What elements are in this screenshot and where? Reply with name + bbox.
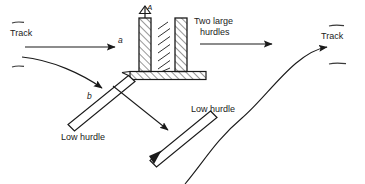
track-right-dash-top xyxy=(329,25,344,26)
low-hurdle-left-bar xyxy=(68,76,135,132)
track-left-dash-top xyxy=(12,22,24,23)
large-hurdle-base xyxy=(130,72,206,80)
two-large-hurdles-label-line1: Two large xyxy=(194,16,233,27)
track-left-label: Track xyxy=(10,28,32,39)
large-hurdle-gap-hatching xyxy=(158,22,170,72)
low-hurdle-right-label: Low hurdle xyxy=(191,104,235,115)
large-hurdle-left-pillar xyxy=(139,18,151,72)
figure-root: Track Track a b A Two large hurdles Low … xyxy=(0,0,365,184)
path-b-label: b xyxy=(87,91,92,102)
two-large-hurdles-label-line2: hurdles xyxy=(200,27,230,38)
low-hurdle-right-bar xyxy=(150,111,217,167)
path-a-label: a xyxy=(118,35,123,46)
track-left-dash-bottom xyxy=(12,66,24,67)
low-hurdle-left-joint xyxy=(122,72,130,76)
track-right-label: Track xyxy=(321,31,343,42)
large-hurdle-right-pillar xyxy=(175,18,187,72)
path-b-curve-arrow xyxy=(22,57,102,88)
track-right-dash-bottom xyxy=(329,63,346,64)
low-hurdle-left-label: Low hurdle xyxy=(61,132,105,143)
mid-diagonal-arrow xyxy=(113,86,168,130)
flag-marker-a-label: A xyxy=(147,2,152,13)
diagram-canvas xyxy=(0,0,365,184)
